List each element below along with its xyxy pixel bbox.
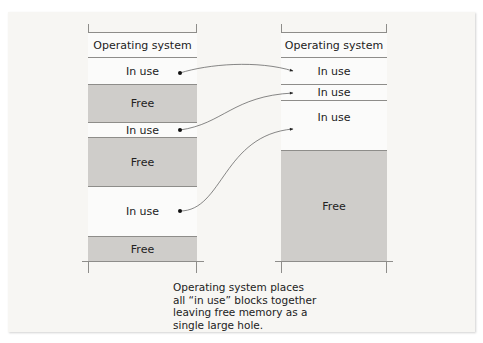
arrow-in-use-1 (180, 64, 293, 73)
caption: Operating system places all “in use” blo… (173, 281, 323, 331)
caption-line-2: all “in use” blocks together (173, 294, 323, 307)
source-dot-1 (178, 71, 182, 75)
caption-line-3: leaving free memory as a (173, 306, 323, 319)
caption-line-1: Operating system places (173, 281, 323, 294)
diagram-card: Operating system In use Free In use Free… (8, 12, 475, 332)
arrow-in-use-3 (180, 129, 293, 211)
caption-line-4: single large hole. (173, 319, 323, 332)
source-dot-2 (178, 128, 182, 132)
arrow-in-use-2 (180, 93, 293, 130)
source-dot-3 (178, 209, 182, 213)
